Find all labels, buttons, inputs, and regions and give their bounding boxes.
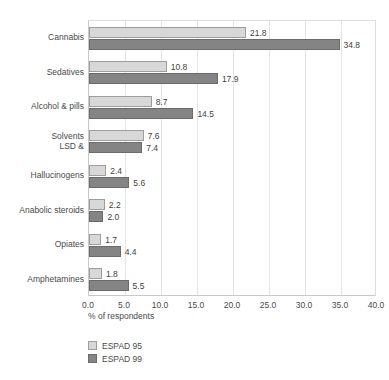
bar-value-label: 5.6 <box>133 178 145 188</box>
bar-value-label: 14.5 <box>197 109 214 119</box>
bar <box>89 96 152 107</box>
legend-label: ESPAD 99 <box>102 353 142 365</box>
bar <box>89 27 246 38</box>
legend-item[interactable]: ESPAD 95 <box>88 339 142 352</box>
legend-swatch <box>88 354 97 363</box>
bar <box>89 165 106 176</box>
x-tick-label: 25.0 <box>260 300 277 310</box>
bar-value-label: 1.7 <box>105 235 117 245</box>
legend-item[interactable]: ESPAD 99 <box>88 352 142 365</box>
bar-value-label: 7.4 <box>146 143 158 153</box>
x-tick-label: 0.0 <box>82 300 94 310</box>
x-tick-label: 35.0 <box>332 300 349 310</box>
x-tick-label: 40.0 <box>368 300 385 310</box>
category-label: Amphetamines <box>0 274 84 284</box>
x-tick-label: 5.0 <box>118 300 130 310</box>
bar-value-label: 21.8 <box>250 28 267 38</box>
bar <box>89 280 129 291</box>
bar-chart: 21.834.810.817.98.714.57.67.42.45.62.22.… <box>0 0 389 380</box>
gridline <box>341 21 342 295</box>
x-tick-label: 10.0 <box>152 300 169 310</box>
gridline <box>197 21 198 295</box>
category-label: Opiates <box>0 239 84 249</box>
bar-value-label: 2.4 <box>110 166 122 176</box>
bar <box>89 39 340 50</box>
category-label: Sedatives <box>0 67 84 77</box>
bar-value-label: 2.0 <box>107 212 119 222</box>
bar <box>89 73 218 84</box>
bar <box>89 246 121 257</box>
bar <box>89 177 129 188</box>
category-label: Cannabis <box>0 32 84 42</box>
bar <box>89 199 105 210</box>
bar <box>89 234 101 245</box>
bar <box>89 61 167 72</box>
bar-value-label: 4.4 <box>125 247 137 257</box>
bar-value-label: 34.8 <box>344 40 361 50</box>
bar-value-label: 5.5 <box>133 281 145 291</box>
bar-value-label: 10.8 <box>171 62 188 72</box>
x-tick-label: 20.0 <box>224 300 241 310</box>
legend-swatch <box>88 341 97 350</box>
bar <box>89 108 193 119</box>
bar-value-label: 7.6 <box>148 131 160 141</box>
x-tick-label: 15.0 <box>188 300 205 310</box>
bar-value-label: 2.2 <box>109 200 121 210</box>
plot-area: 21.834.810.817.98.714.57.67.42.45.62.22.… <box>88 20 376 296</box>
bar <box>89 268 102 279</box>
bar-value-label: 1.8 <box>106 269 118 279</box>
gridline <box>233 21 234 295</box>
legend: ESPAD 95ESPAD 99 <box>88 339 142 365</box>
legend-label: ESPAD 95 <box>102 340 142 352</box>
bar <box>89 142 142 153</box>
bar-value-label: 8.7 <box>156 97 168 107</box>
category-label: Hallucinogens <box>0 170 84 180</box>
bar-value-label: 17.9 <box>222 74 239 84</box>
category-label: Alcohol & pills <box>0 101 84 111</box>
bar <box>89 211 103 222</box>
category-label: Solvents <box>0 131 84 141</box>
bar <box>89 130 144 141</box>
gridline <box>305 21 306 295</box>
category-label: LSD & <box>0 141 84 151</box>
gridline <box>269 21 270 295</box>
x-axis-title: % of respondents <box>88 311 154 321</box>
category-label: Anabolic steroids <box>0 205 84 215</box>
x-tick-label: 30.0 <box>296 300 313 310</box>
